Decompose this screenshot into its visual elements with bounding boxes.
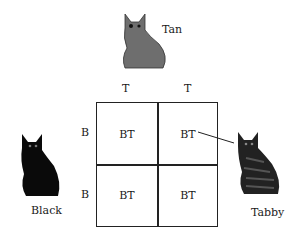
tabby-cat-icon xyxy=(236,128,286,198)
black-label: Black xyxy=(31,205,62,216)
black-cat-icon xyxy=(18,130,63,200)
tabby-label: Tabby xyxy=(251,207,284,218)
